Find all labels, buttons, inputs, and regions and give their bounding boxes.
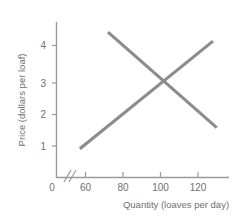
supply-demand-chart: 4 3 2 1 0 60 80 100 120 Quantity (loaves… (0, 0, 244, 221)
y-tick-label-1: 1 (40, 141, 46, 152)
y-tick-label-3: 3 (40, 78, 46, 89)
chart-canvas: 4 3 2 1 0 60 80 100 120 Quantity (loaves… (0, 0, 244, 221)
x-tick-label-120: 120 (190, 182, 207, 193)
x-tick-label-80: 80 (117, 182, 129, 193)
x-axis-label: Quantity (loaves per day) (123, 199, 229, 210)
supply-curve (80, 41, 213, 149)
x-tick-label-0: 0 (49, 182, 55, 193)
x-axis-break-icon (64, 170, 76, 182)
x-tick-label-100: 100 (152, 182, 169, 193)
y-axis-label: Price (dollars per loaf) (16, 54, 27, 147)
y-tick-label-4: 4 (40, 40, 46, 51)
x-tick-label-60: 60 (80, 182, 92, 193)
y-tick-label-2: 2 (40, 109, 46, 120)
